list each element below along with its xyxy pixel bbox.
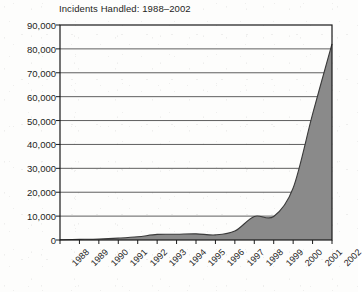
area-series-fill [60, 44, 332, 240]
x-axis-tick-marks [60, 240, 332, 244]
